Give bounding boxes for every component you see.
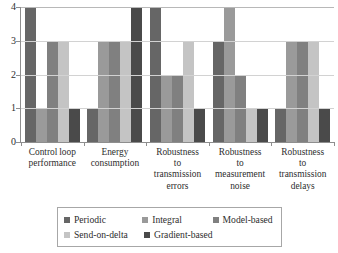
legend-item[interactable]: Gradient-based [144, 227, 216, 242]
x-axis-label-line: errors [147, 181, 208, 192]
legend-row: PeriodicIntegralModel-based [64, 212, 281, 227]
gridline [21, 7, 334, 8]
bar[interactable] [47, 41, 58, 142]
bar[interactable] [297, 41, 308, 142]
x-axis-label-line: delays [272, 181, 333, 192]
bar[interactable] [257, 108, 268, 142]
x-axis-label: Robustnesstomeasurementnoise [209, 147, 272, 192]
legend-item[interactable]: Send-on-delta [64, 227, 144, 242]
x-axis-line [20, 142, 334, 143]
x-axis-label-line: transmission [147, 169, 208, 180]
legend-swatch-icon [64, 232, 70, 238]
legend-row: Send-on-deltaGradient-based [64, 227, 281, 242]
legend-swatch-icon [142, 217, 148, 223]
bar[interactable] [109, 41, 120, 142]
bar[interactable] [36, 108, 47, 142]
x-axis-label-line: Control loop [22, 147, 83, 158]
gridline [21, 41, 334, 42]
bar[interactable] [213, 41, 224, 142]
bar[interactable] [87, 108, 98, 142]
legend-item[interactable]: Integral [142, 212, 212, 227]
y-tick-mark [16, 7, 20, 8]
y-tick-label: 2 [0, 70, 16, 80]
legend-label: Integral [152, 215, 182, 225]
legend-label: Send-on-delta [74, 230, 128, 240]
gridline [21, 75, 334, 76]
x-tick-mark [146, 142, 147, 146]
legend-item[interactable]: Periodic [64, 212, 142, 227]
y-tick-mark [16, 108, 20, 109]
bar[interactable] [98, 41, 109, 142]
x-axis-label-line: noise [210, 181, 271, 192]
x-axis-label-line: to [210, 158, 271, 169]
bar[interactable] [194, 108, 205, 142]
bar[interactable] [286, 41, 297, 142]
x-axis-label-line: transmission [272, 169, 333, 180]
bar[interactable] [120, 41, 131, 142]
x-axis-label-line: consumption [85, 158, 146, 169]
x-axis-label: Control loopperformance [21, 147, 84, 192]
bar[interactable] [183, 41, 194, 142]
bar-chart: 01234 Control loopperformanceEnergyconsu… [0, 0, 338, 253]
x-axis-label-line: performance [22, 158, 83, 169]
x-axis-label: Energyconsumption [84, 147, 147, 192]
x-axis-label-line: measurement [210, 169, 271, 180]
plot-area [21, 7, 334, 142]
bar[interactable] [308, 41, 319, 142]
x-axis-label: Robustnesstotransmissionerrors [146, 147, 209, 192]
bar[interactable] [69, 108, 80, 142]
gridline [21, 108, 334, 109]
x-axis-label-line: Robustness [272, 147, 333, 158]
x-tick-mark [209, 142, 210, 146]
legend-swatch-icon [64, 217, 70, 223]
bar[interactable] [246, 108, 257, 142]
x-axis-label-line: Robustness [210, 147, 271, 158]
x-axis-label-line: Energy [85, 147, 146, 158]
x-axis-labels: Control loopperformanceEnergyconsumption… [21, 147, 334, 192]
y-axis: 01234 [0, 4, 16, 148]
y-tick-mark [16, 75, 20, 76]
x-tick-mark [334, 142, 335, 146]
bar[interactable] [319, 108, 330, 142]
bar[interactable] [58, 41, 69, 142]
y-tick-label: 0 [0, 137, 16, 147]
x-axis-label-line: to [147, 158, 208, 169]
x-axis-label-line: to [272, 158, 333, 169]
chart-legend: PeriodicIntegralModel-basedSend-on-delta… [57, 207, 282, 247]
plot-wrapper: 01234 [0, 4, 338, 148]
legend-item[interactable]: Model-based [213, 212, 281, 227]
y-tick-mark [16, 142, 20, 143]
legend-swatch-icon [213, 217, 219, 223]
y-tick-mark [16, 41, 20, 42]
y-tick-label: 1 [0, 103, 16, 113]
legend-label: Periodic [74, 215, 106, 225]
legend-label: Gradient-based [154, 230, 213, 240]
x-tick-mark [84, 142, 85, 146]
legend-swatch-icon [144, 232, 150, 238]
y-tick-label: 3 [0, 36, 16, 46]
legend-label: Model-based [223, 215, 273, 225]
bar[interactable] [275, 108, 286, 142]
x-tick-mark [271, 142, 272, 146]
x-tick-mark [21, 142, 22, 146]
x-axis-label-line: Robustness [147, 147, 208, 158]
y-tick-label: 4 [0, 2, 16, 12]
x-axis-label: Robustnesstotransmissiondelays [271, 147, 334, 192]
